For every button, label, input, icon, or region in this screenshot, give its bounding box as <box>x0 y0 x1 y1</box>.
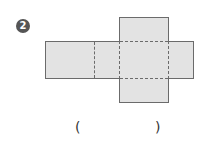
problem-number-badge: 2 <box>16 19 30 33</box>
fold-line <box>119 41 120 79</box>
fold-line <box>120 78 168 79</box>
fold-line <box>94 42 95 78</box>
net-top-flap <box>119 17 169 42</box>
answer-close-paren: ) <box>155 119 160 135</box>
net-bottom-flap <box>119 78 169 103</box>
answer-open-paren: ( <box>75 119 80 135</box>
fold-line <box>168 41 169 79</box>
fold-line <box>120 41 168 42</box>
